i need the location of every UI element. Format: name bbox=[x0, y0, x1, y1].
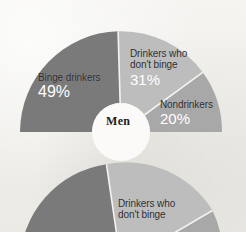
label-drinkers-no-binge-value: 31% bbox=[130, 71, 187, 88]
label-nondrinkers: Nondrinkers 20% bbox=[160, 99, 213, 127]
label-drinkers-no-binge-line2: don't binge bbox=[130, 59, 187, 70]
label-drinkers-no-binge-2-line2: don't binge bbox=[118, 209, 175, 220]
label-drinkers-no-binge-2: Drinkers who don't binge bbox=[118, 198, 175, 221]
label-nondrinkers-value: 20% bbox=[160, 110, 213, 127]
chart-men-center-label: Men bbox=[106, 114, 130, 129]
half-donut-chart-second: Drinkers who don't binge bbox=[0, 150, 246, 232]
label-drinkers-no-binge-2-line1: Drinkers who bbox=[118, 198, 175, 209]
label-nondrinkers-text: Nondrinkers bbox=[160, 99, 213, 110]
label-drinkers-no-binge: Drinkers who don't binge 31% bbox=[130, 48, 187, 88]
label-binge-drinkers-value: 49% bbox=[38, 83, 101, 101]
label-drinkers-no-binge-line1: Drinkers who bbox=[130, 48, 187, 59]
label-binge-drinkers: Binge drinkers 49% bbox=[38, 72, 101, 102]
segment-binge-drinkers-2 bbox=[20, 164, 121, 232]
label-binge-drinkers-text: Binge drinkers bbox=[38, 72, 101, 83]
half-donut-chart-men: Binge drinkers 49% Drinkers who don't bi… bbox=[0, 0, 246, 150]
